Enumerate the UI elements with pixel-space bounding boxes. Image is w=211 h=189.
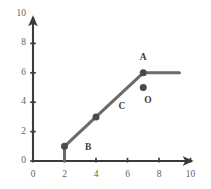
x-axis-tick-label: 4 xyxy=(94,170,99,180)
y-axis-tick-label: 10 xyxy=(17,9,27,19)
y-axis-tick-label: 8 xyxy=(21,39,26,49)
label-o: O xyxy=(144,96,151,106)
x-axis-tick-label: 2 xyxy=(62,170,67,180)
label-a: A xyxy=(140,53,147,63)
x-axis-tick-label: 6 xyxy=(125,170,130,180)
data-series-line xyxy=(65,73,180,161)
x-axis-tick-label: 8 xyxy=(157,170,162,180)
label-b: B xyxy=(85,143,91,153)
y-axis-tick-label: 4 xyxy=(21,97,26,107)
y-axis-tick-label: 6 xyxy=(21,68,26,78)
x-axis-tick-label: 0 xyxy=(31,170,36,180)
x-axis-tick-label: 10 xyxy=(186,170,196,180)
point-marker-o[interactable] xyxy=(140,84,147,91)
y-axis-tick-label: 0 xyxy=(21,156,26,166)
chart-container: 02468100246810AOCB xyxy=(0,0,211,189)
label-c: C xyxy=(119,103,126,113)
vertex-marker-a[interactable] xyxy=(140,69,147,76)
start-marker[interactable] xyxy=(61,143,68,150)
chart-plot-area xyxy=(0,0,211,189)
mid-marker[interactable] xyxy=(93,113,100,120)
y-axis-tick-label: 2 xyxy=(21,127,26,137)
